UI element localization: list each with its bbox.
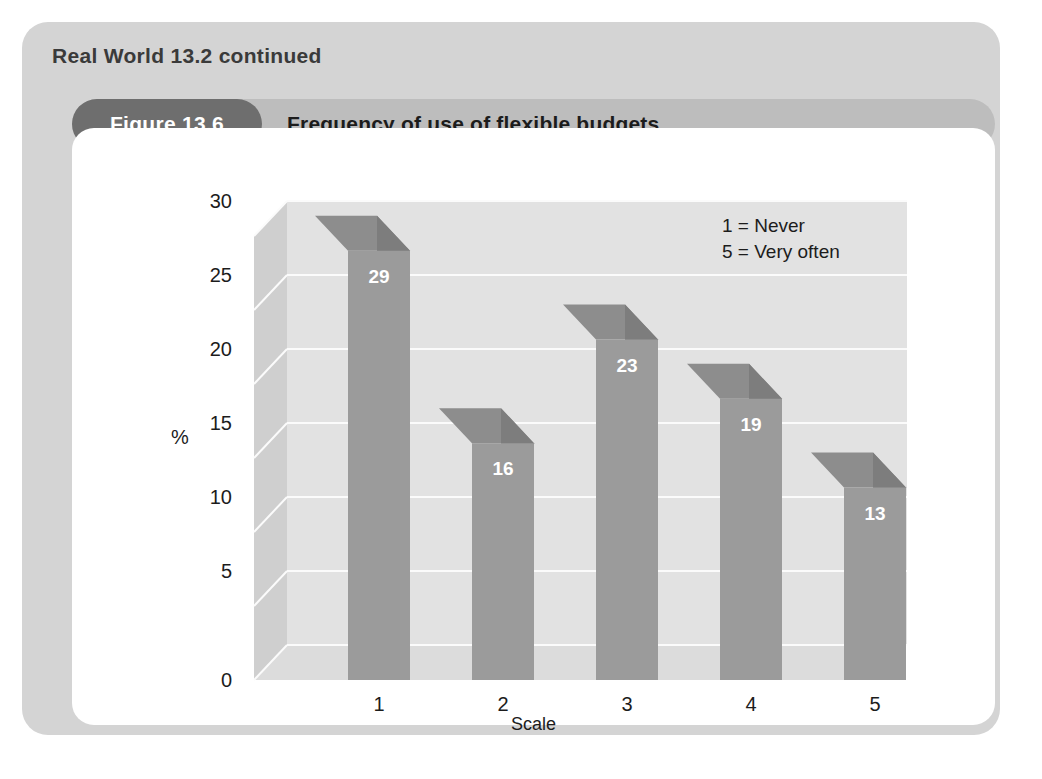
y-tick-label-15: 15 — [210, 412, 232, 434]
bar-value-label-1: 29 — [368, 266, 389, 287]
bar-face-1 — [348, 251, 410, 680]
y-tick-label-10: 10 — [210, 486, 232, 508]
x-tick-label-3: 3 — [621, 693, 632, 715]
bar-value-label-5: 13 — [864, 503, 885, 524]
bar-value-label-3: 23 — [616, 355, 637, 376]
bar-value-label-2: 16 — [492, 458, 513, 479]
x-axis-title: Scale — [72, 714, 995, 735]
bar-face-3 — [596, 340, 658, 680]
y-tick-label-25: 25 — [210, 264, 232, 286]
x-tick-label-2: 2 — [497, 693, 508, 715]
x-tick-label-1: 1 — [373, 693, 384, 715]
y-axis-title: % — [171, 426, 189, 448]
legend-line-2: 5 = Very often — [722, 241, 840, 262]
x-tick-label-5: 5 — [869, 693, 880, 715]
y-axis: 30 25 20 15 10 5 0 % — [171, 190, 232, 691]
real-world-heading: Real World 13.2 continued — [52, 44, 322, 68]
chart-area: 30 25 20 15 10 5 0 % — [72, 128, 995, 725]
y-tick-label-30: 30 — [210, 190, 232, 212]
legend-line-1: 1 = Never — [722, 215, 806, 236]
bar-face-4 — [720, 399, 782, 680]
y-tick-label-5: 5 — [221, 560, 232, 582]
figure-panel: 30 25 20 15 10 5 0 % — [72, 128, 995, 725]
bar-chart-3d: 30 25 20 15 10 5 0 % — [72, 128, 995, 725]
y-tick-label-20: 20 — [210, 338, 232, 360]
y-tick-label-0: 0 — [221, 669, 232, 691]
bar-value-label-4: 19 — [740, 414, 761, 435]
x-tick-label-4: 4 — [745, 693, 756, 715]
x-axis: 1 2 3 4 5 — [373, 693, 880, 715]
real-world-card: Real World 13.2 continued Figure 13.6 Fr… — [22, 22, 1000, 735]
